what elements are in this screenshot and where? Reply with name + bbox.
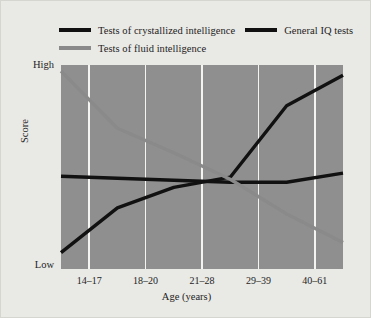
legend-label-fluid: Tests of fluid intelligence	[98, 43, 206, 54]
legend-entry-fluid: Tests of fluid intelligence	[59, 43, 206, 54]
y-axis-title: Score	[19, 119, 30, 143]
x-axis-title: Age (years)	[1, 291, 371, 302]
legend-label-crystallized: Tests of crystallized intelligence	[98, 25, 235, 36]
legend-row: Tests of crystallized intelligence Gener…	[1, 21, 371, 39]
legend-swatch-crystallized	[59, 28, 91, 32]
series-line	[61, 75, 343, 252]
x-axis-tick: 14–17	[77, 275, 102, 286]
x-axis-tick: 29–39	[246, 275, 271, 286]
legend-swatch-fluid	[59, 46, 91, 50]
series-lines	[61, 65, 343, 269]
x-axis-tick: 40–61	[302, 275, 327, 286]
x-axis-tick-labels: 14–1718–2021–2829–3940–61	[61, 275, 343, 289]
legend-row: Tests of fluid intelligence	[1, 39, 371, 57]
chart-figure: Tests of crystallized intelligence Gener…	[0, 0, 371, 318]
x-axis-tick: 18–20	[133, 275, 158, 286]
chart-legend: Tests of crystallized intelligence Gener…	[1, 21, 371, 61]
x-axis-tick: 21–28	[190, 275, 215, 286]
y-axis-high-label: High	[33, 59, 54, 70]
plot-area-wrapper	[61, 65, 343, 269]
legend-entry-general-iq: General IQ tests	[245, 25, 353, 36]
legend-entry-crystallized: Tests of crystallized intelligence	[59, 25, 235, 36]
series-line	[61, 173, 343, 182]
legend-swatch-general-iq	[245, 28, 277, 32]
y-axis-low-label: Low	[35, 259, 54, 270]
legend-label-general-iq: General IQ tests	[284, 25, 353, 36]
